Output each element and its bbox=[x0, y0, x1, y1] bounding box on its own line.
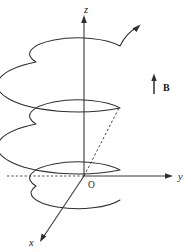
radius-dashed-line bbox=[84, 108, 119, 176]
field-label-b: B bbox=[163, 82, 170, 93]
y-axis bbox=[84, 173, 173, 179]
trajectory-arrow-icon bbox=[133, 25, 141, 32]
figure-canvas: B z y x O bbox=[0, 0, 191, 252]
magnetic-field-indicator: B bbox=[151, 74, 170, 95]
helix-trajectory-path bbox=[0, 28, 136, 209]
physics-diagram: B z y x O bbox=[0, 0, 191, 252]
trajectory-group bbox=[0, 25, 141, 209]
z-axis bbox=[81, 15, 87, 176]
axis-arrow-right-icon bbox=[165, 173, 173, 179]
axis-arrow-up-icon bbox=[81, 15, 87, 23]
origin-label: O bbox=[88, 180, 95, 190]
field-arrow-up-icon bbox=[151, 74, 156, 82]
y-axis-label: y bbox=[177, 171, 183, 182]
x-axis-label: x bbox=[28, 237, 34, 248]
z-axis-label: z bbox=[83, 4, 88, 15]
